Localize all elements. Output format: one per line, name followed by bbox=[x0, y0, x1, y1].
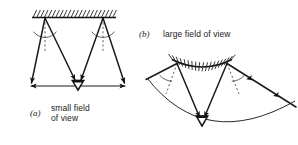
ray-b-incoming-right bbox=[205, 64, 228, 118]
ray-b-outgoing-right bbox=[227, 64, 296, 108]
ray-a-incoming-right bbox=[81, 18, 103, 80]
panel-label-b: (b) bbox=[139, 29, 150, 39]
ray-a-outgoing-left bbox=[32, 18, 46, 83]
optics-diagram-svg bbox=[0, 0, 298, 145]
panel-b-group bbox=[146, 54, 296, 127]
figure-root: (a) small field of view (b) large field … bbox=[0, 0, 298, 145]
ray-a-incoming-left bbox=[45, 18, 75, 80]
caption-small-field-of-view: small field of view bbox=[51, 103, 90, 123]
flat-mirror-hatching bbox=[33, 10, 116, 18]
ray-a-outgoing-right bbox=[103, 18, 125, 83]
angle-arc-left-b bbox=[160, 75, 173, 81]
panel-a-group bbox=[31, 10, 125, 91]
caption-large-field-of-view: large field of view bbox=[163, 29, 231, 39]
panel-label-a: (a) bbox=[30, 108, 41, 118]
observer-eye-b bbox=[196, 116, 209, 128]
